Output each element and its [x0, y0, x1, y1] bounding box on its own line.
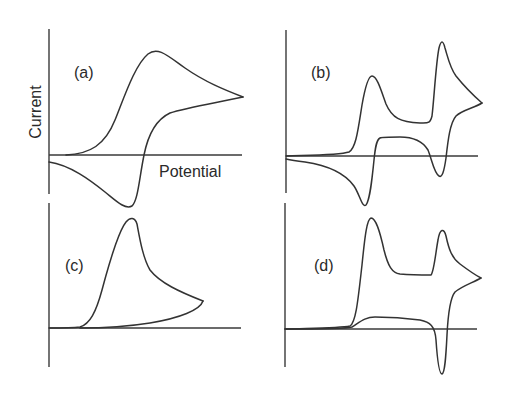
panel-a: (a) Potential: [49, 29, 243, 207]
panel-d: (d): [285, 203, 481, 374]
x-axis-label: Potential: [159, 163, 221, 180]
panel-c-label: (c): [65, 257, 84, 274]
panel-a-label: (a): [74, 64, 94, 81]
panel-b-label: (b): [311, 64, 331, 81]
panel-c-reverse-curve: [80, 301, 203, 328]
panel-d-label: (d): [314, 257, 334, 274]
panel-a-reverse-curve: [49, 97, 243, 207]
cyclic-voltammetry-figure: Current (a) Potential (b) (c) (d): [0, 0, 505, 397]
panel-c: (c): [49, 203, 241, 367]
panel-b: (b): [286, 30, 482, 205]
panel-d-reverse-curve: [285, 278, 481, 374]
panel-b-reverse-curve: [286, 103, 482, 205]
panel-b-forward-curve: [286, 42, 482, 156]
y-axis-label: Current: [27, 85, 44, 139]
